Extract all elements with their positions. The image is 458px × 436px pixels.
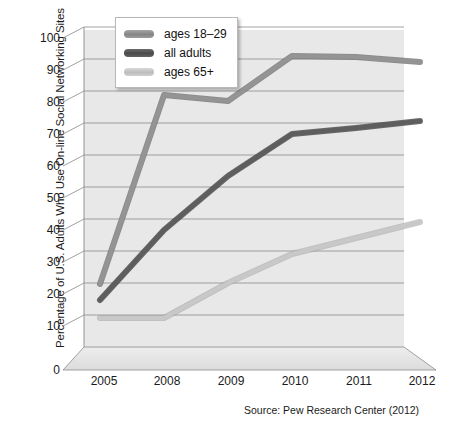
y-axis-ticks: 100 90 80 70 60 50 40 30 20 10 0 <box>26 0 60 436</box>
y-tick-label: 80 <box>26 95 60 109</box>
y-tick-label: 10 <box>26 319 60 333</box>
y-tick-label: 20 <box>26 287 60 301</box>
y-tick-label: 60 <box>26 159 60 173</box>
x-tick-label: 2008 <box>154 374 181 388</box>
x-tick-label: 2010 <box>282 374 309 388</box>
legend-item-ages-18-29: ages 18–29 <box>124 24 227 43</box>
y-tick-label: 30 <box>26 255 60 269</box>
x-tick-label: 2009 <box>218 374 245 388</box>
legend-swatch-all-adults <box>124 49 154 57</box>
y-tick-label: 90 <box>26 63 60 77</box>
legend-swatch-ages-65-plus <box>124 68 154 76</box>
x-tick-label: 2005 <box>91 374 118 388</box>
legend-item-all-adults: all adults <box>124 43 227 62</box>
chart-legend: ages 18–29 all adults ages 65+ <box>115 17 238 88</box>
legend-swatch-ages-18-29 <box>124 30 154 38</box>
legend-label: all adults <box>164 46 211 60</box>
y-tick-label: 70 <box>26 127 60 141</box>
legend-label: ages 18–29 <box>164 27 227 41</box>
legend-item-ages-65-plus: ages 65+ <box>124 62 227 81</box>
line-chart: Percentage of U.S. Adults Who Use On-lin… <box>0 0 458 436</box>
x-tick-label: 2012 <box>409 374 436 388</box>
legend-label: ages 65+ <box>164 65 214 79</box>
y-tick-label: 50 <box>26 191 60 205</box>
plot-floor <box>63 347 436 370</box>
source-note: Source: Pew Research Center (2012) <box>244 404 419 416</box>
y-tick-label: 40 <box>26 223 60 237</box>
y-tick-label: 100 <box>26 31 60 45</box>
x-tick-label: 2011 <box>346 374 372 388</box>
y-tick-label: 0 <box>26 363 60 377</box>
